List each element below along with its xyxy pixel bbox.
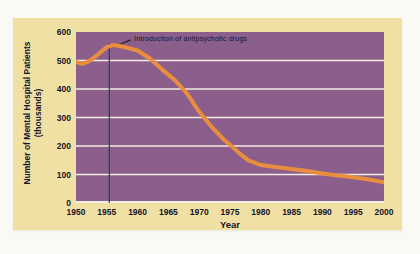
x-tick-1960: 1960 [128, 207, 147, 217]
x-tick-1975: 1975 [221, 207, 240, 217]
x-tick-1965: 1965 [159, 207, 178, 217]
y-axis-title-line1: Number of Mental Hospital Patients [22, 18, 33, 208]
patients-line-series [76, 45, 384, 182]
y-tick-600: 600 [39, 27, 71, 37]
plot-area: Introduction of antipsychotic drugs [76, 32, 384, 203]
y-tick-200: 200 [39, 141, 71, 151]
y-tick-100: 100 [39, 170, 71, 180]
chart-card: Number of Mental Hospital Patients (thou… [13, 18, 402, 230]
x-tick-1985: 1985 [282, 207, 301, 217]
y-tick-300: 300 [39, 113, 71, 123]
y-tick-400: 400 [39, 84, 71, 94]
x-tick-1955: 1955 [97, 207, 116, 217]
x-tick-1995: 1995 [344, 207, 363, 217]
x-tick-1980: 1980 [251, 207, 270, 217]
x-tick-1990: 1990 [313, 207, 332, 217]
x-tick-2000: 2000 [375, 207, 394, 217]
x-tick-1950: 1950 [67, 207, 86, 217]
x-tick-1970: 1970 [190, 207, 209, 217]
y-tick-500: 500 [39, 56, 71, 66]
line-chart [76, 32, 384, 203]
x-axis-title: Year [220, 219, 240, 230]
annotation-label: Introduction of antipsychotic drugs [134, 35, 247, 42]
